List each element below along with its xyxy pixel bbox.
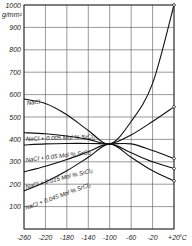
y-tick: 1000: [5, 2, 21, 9]
series-line: [24, 5, 174, 144]
x-tick: -260: [17, 234, 31, 241]
x-axis-unit: °C: [179, 234, 188, 241]
line-chart: 1002003004005006007008009001000-260-220-…: [0, 0, 192, 246]
x-tick: -100: [103, 234, 117, 241]
y-tick: 400: [9, 136, 21, 143]
series-label-0005: NaCl + 0.005 Mol % SrCl₂: [26, 134, 96, 142]
x-tick: -180: [60, 234, 74, 241]
end-marker: [173, 179, 176, 182]
end-marker: [173, 4, 176, 7]
y-tick: 700: [9, 69, 21, 76]
y-tick: 600: [9, 91, 21, 98]
y-axis-unit: g/mm²: [2, 11, 23, 19]
end-marker: [173, 106, 176, 109]
y-tick: 100: [9, 203, 21, 210]
y-tick: 500: [9, 114, 21, 121]
end-marker: [173, 167, 176, 170]
x-tick: -140: [81, 234, 95, 241]
series-label-nacl: NaCl: [26, 99, 41, 106]
y-tick: 300: [9, 158, 21, 165]
end-marker: [173, 157, 176, 160]
y-tick: 800: [9, 46, 21, 53]
x-tick: -60: [126, 234, 136, 241]
y-tick: 200: [8, 181, 21, 188]
grid: [24, 5, 174, 229]
x-tick: -20: [148, 234, 158, 241]
x-tick: -220: [38, 234, 52, 241]
y-tick: 900: [9, 24, 21, 31]
